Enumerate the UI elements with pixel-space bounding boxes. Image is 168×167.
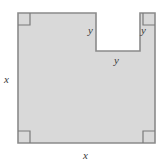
dimension-label-y-notch-bottom: y <box>114 55 119 66</box>
geometry-figure: x x y y y <box>0 0 168 167</box>
dimension-label-x-bottom: x <box>83 150 88 161</box>
notched-square-shape <box>18 13 155 143</box>
dimension-label-y-notch-right: y <box>141 25 146 36</box>
dimension-label-x-left: x <box>4 74 9 85</box>
dimension-label-y-notch-left: y <box>88 25 93 36</box>
